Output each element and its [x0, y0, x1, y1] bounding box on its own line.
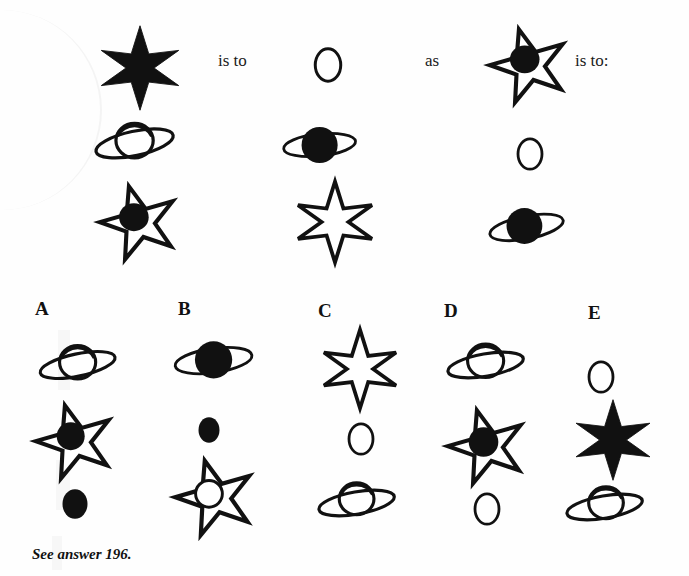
option-a-item3-circle-filled-icon[interactable]: [59, 486, 91, 522]
option-label-b[interactable]: B: [178, 298, 191, 320]
stem-col3-item1-five-point-star-with-filled-dot-icon: [482, 24, 574, 98]
option-d-item1-saturn-open-icon[interactable]: [444, 340, 530, 390]
option-c-item3-saturn-open-icon[interactable]: [315, 478, 401, 528]
stem-col3-item2-circle-open-icon: [514, 135, 546, 173]
stem-col3-item3-saturn-filled-icon: [485, 200, 571, 252]
scan-artifact-arc: [0, 10, 102, 210]
option-b-item2-circle-filled-small-icon[interactable]: [196, 415, 222, 445]
puzzle-page: is to as is to:: [0, 0, 689, 576]
stem-col2-item3-six-point-star-open-icon: [293, 180, 377, 264]
option-a-item2-five-point-star-with-filled-dot-icon[interactable]: [28, 400, 120, 474]
option-d-item2-five-point-star-with-filled-dot-icon[interactable]: [440, 405, 532, 479]
option-label-e[interactable]: E: [588, 302, 601, 324]
option-e-item3-saturn-open-icon[interactable]: [563, 482, 649, 532]
option-c-item2-circle-open-icon[interactable]: [345, 420, 377, 458]
stem-col1-item3-five-point-star-with-filled-dot-icon: [92, 181, 184, 255]
option-label-d[interactable]: D: [444, 300, 458, 322]
option-e-item2-six-point-star-filled-icon[interactable]: [571, 398, 655, 482]
option-b-item3-five-point-star-with-open-circle-icon[interactable]: [168, 455, 260, 531]
connector-is-to-1: is to: [218, 51, 247, 71]
option-c-item1-six-point-star-open-icon[interactable]: [319, 328, 401, 410]
stem-col1-item1-six-point-star-filled-icon: [96, 24, 184, 112]
option-label-c[interactable]: C: [318, 300, 332, 322]
connector-is-to-2: is to:: [575, 51, 609, 71]
option-d-item3-circle-open-icon[interactable]: [471, 490, 503, 528]
option-e-item1-circle-open-icon[interactable]: [585, 358, 617, 396]
option-a-item1-saturn-open-icon[interactable]: [36, 340, 122, 390]
stem-col1-item2-saturn-open-icon: [93, 116, 179, 168]
see-answer-footnote: See answer 196.: [32, 546, 132, 563]
stem-col2-item2-saturn-filled-icon: [279, 120, 363, 170]
option-b-item1-saturn-filled-icon[interactable]: [172, 336, 258, 388]
option-label-a[interactable]: A: [35, 298, 49, 320]
connector-as: as: [425, 51, 439, 71]
stem-col2-item1-circle-open-icon: [311, 45, 345, 85]
